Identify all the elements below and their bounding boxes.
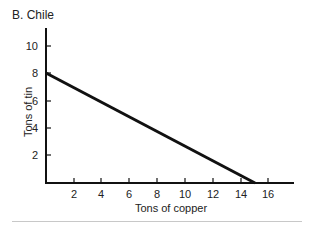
x-tick-label: 10 — [175, 188, 195, 200]
x-tick-label: 12 — [203, 188, 223, 200]
ppf-line — [46, 73, 255, 183]
y-tick-label: 10 — [22, 40, 38, 52]
x-tick-label: 4 — [91, 188, 111, 200]
x-tick-label: 8 — [147, 188, 167, 200]
x-tick-label: 16 — [258, 188, 278, 200]
y-tick-label: 8 — [22, 67, 38, 79]
x-tick-label: 2 — [64, 188, 84, 200]
divider — [12, 221, 302, 222]
y-tick-label: 6 — [22, 95, 38, 107]
x-tick-label: 14 — [231, 188, 251, 200]
y-tick-label: 2 — [22, 149, 38, 161]
x-tick-label: 6 — [119, 188, 139, 200]
y-tick-label: 4 — [22, 122, 38, 134]
